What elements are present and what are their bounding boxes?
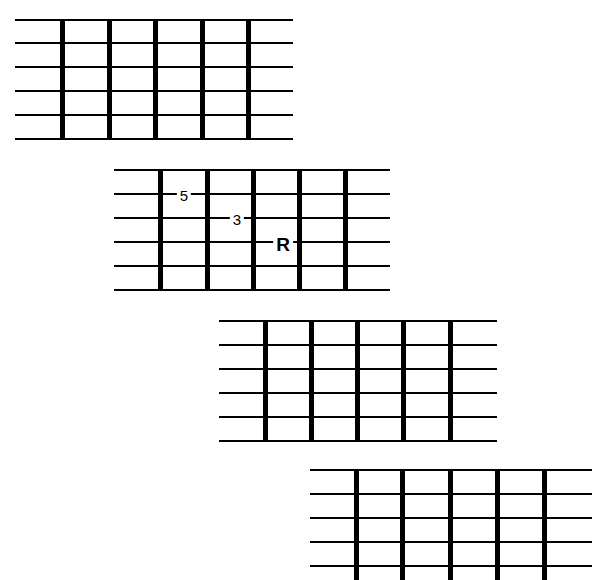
fret-line <box>400 470 405 580</box>
fret-line <box>158 170 163 291</box>
fret-line <box>495 470 500 580</box>
fret-line <box>297 170 302 291</box>
fret-line <box>246 20 251 140</box>
interval-label: 5 <box>177 188 191 203</box>
fret-line <box>205 170 210 291</box>
fret-line <box>153 20 158 140</box>
fret-line <box>200 20 205 140</box>
fret-line <box>355 321 360 442</box>
fret-line <box>263 321 268 442</box>
root-note-label: R <box>273 235 293 254</box>
fret-line <box>107 20 112 140</box>
fret-line <box>401 321 406 442</box>
fret-line <box>309 321 314 442</box>
fret-line <box>354 470 359 580</box>
fret-line <box>542 470 547 580</box>
fret-line <box>343 170 348 291</box>
fret-line <box>251 170 256 291</box>
interval-label: 3 <box>230 212 244 227</box>
fret-line <box>448 470 453 580</box>
fret-line <box>448 321 453 442</box>
fret-line <box>60 20 65 140</box>
